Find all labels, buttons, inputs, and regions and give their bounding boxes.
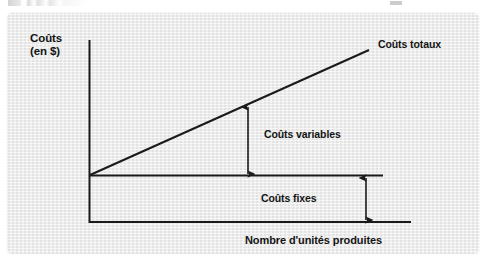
y-axis-label: Coûts (en $) (30, 32, 62, 57)
y-axis-label-line-2: (en $) (30, 45, 62, 58)
page-text-remnant-top (8, 0, 208, 6)
annotation-label-variable-costs: Coûts variables (264, 128, 341, 140)
series-label-total-costs: Coûts totaux (378, 38, 441, 50)
cost-behavior-figure-card: Coûts (en $) Coûts totaux Coûts variable… (6, 12, 480, 255)
series-line-total-costs (90, 50, 369, 175)
annotation-label-fixed-costs: Coûts fixes (261, 192, 317, 204)
y-axis-label-line-1: Coûts (30, 32, 62, 45)
page-text-remnant-top-right (390, 1, 402, 5)
x-axis-label: Nombre d'unités produites (245, 234, 382, 246)
